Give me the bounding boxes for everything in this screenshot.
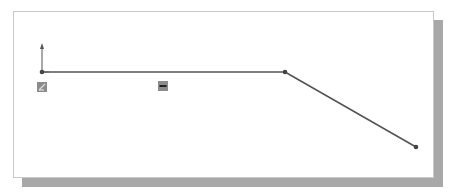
horizontal-relation-icon[interactable] <box>158 81 168 91</box>
sketch-canvas[interactable] <box>0 0 453 192</box>
sketch-point[interactable] <box>414 145 419 150</box>
sloped-line[interactable] <box>285 72 416 147</box>
origin-icon <box>40 43 49 72</box>
sketch-point[interactable] <box>283 70 288 75</box>
sketch-point[interactable] <box>40 70 45 75</box>
coincident-relation-icon[interactable] <box>37 82 47 92</box>
